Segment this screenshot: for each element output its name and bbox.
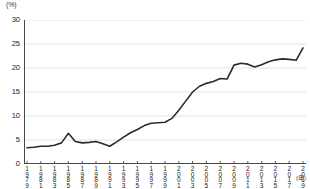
y-axis-tick-label: 20 [12,64,20,72]
plot-area [24,20,306,164]
y-axis-tick-label: 30 [12,16,20,24]
x-axis-tick-label: 1999 [162,166,169,188]
x-axis-tick-label: 2009 [231,166,238,188]
x-axis-tick-labels: 1979198119831985198719891991199319951997… [24,166,310,189]
x-axis-tick-label: 2003 [189,166,196,188]
x-axis-tick-label: 2017 [286,166,293,188]
line-chart: (%) 051015202530 19791981198319851987198… [0,0,310,189]
y-axis-tick-label: 0 [16,160,20,168]
x-axis-tick-label: 2001 [175,166,182,188]
x-axis-tick-label: 2007 [217,166,224,188]
x-axis-tick-label: 1997 [148,166,155,188]
plot-svg [24,20,306,164]
x-axis-tick-label: 2013 [258,166,265,188]
y-axis-tick-label: 10 [12,112,20,120]
y-axis-tick-label: 15 [12,88,20,96]
x-axis-tick-label: 1979 [24,166,31,188]
x-axis-tick-label: 1983 [51,166,58,188]
y-axis-tick-label: 5 [16,136,20,144]
x-axis-tick-label: 2005 [203,166,210,188]
x-axis-tick-label: 1985 [65,166,72,188]
x-axis-tick-label: 1993 [120,166,127,188]
x-axis-tick-label: 1981 [37,166,44,188]
data-series-line [27,48,303,148]
y-axis-tick-label: 25 [12,40,20,48]
x-axis-tick-label: 1987 [79,166,86,188]
x-axis-unit-label: (年) [296,173,306,182]
x-axis-tick-label: 1991 [106,166,113,188]
x-axis-tick-label: 2011 [244,166,251,188]
x-axis-tick-label: 1989 [93,166,100,188]
x-axis-tick-label: 1995 [134,166,141,188]
y-axis-tick-labels: 051015202530 [0,0,24,189]
x-axis-tick-label: 2015 [272,166,279,188]
